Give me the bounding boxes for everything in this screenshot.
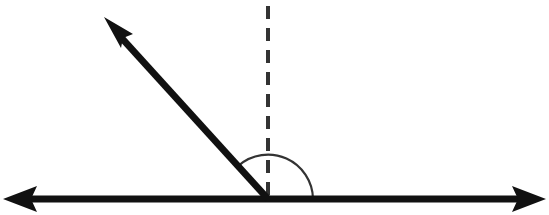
ray [118, 34, 268, 199]
angle-diagram [0, 0, 549, 215]
